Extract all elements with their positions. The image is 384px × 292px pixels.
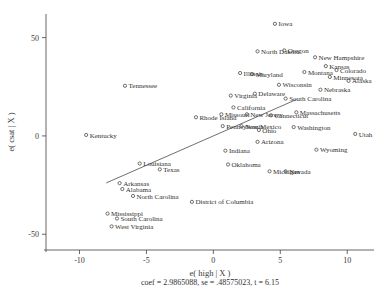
data-point-label: Delaware: [258, 90, 285, 98]
data-point: [85, 133, 88, 136]
scatter-plot: -10-50510-50050e( high | X )e( csat | X …: [0, 0, 384, 292]
data-point: [324, 65, 327, 68]
data-point-label: Kentucky: [90, 132, 118, 140]
x-tick-label: 5: [278, 256, 282, 265]
data-point-label: Virginia: [234, 92, 258, 100]
regression-annotation-text: coef = 2.9865088, se = .48575023, t = 6.…: [141, 278, 279, 287]
data-point: [277, 83, 280, 86]
data-point: [268, 170, 271, 173]
data-point: [131, 194, 134, 197]
data-point-label: Oklahoma: [232, 161, 262, 169]
data-point: [118, 182, 121, 185]
data-point-label: Tennessee: [128, 82, 157, 90]
data-point: [256, 50, 259, 53]
data-point: [229, 94, 232, 97]
data-point-label: Iowa: [278, 20, 293, 28]
data-point: [303, 70, 306, 73]
data-point: [106, 212, 109, 215]
data-point: [292, 125, 295, 128]
x-tick-label: -10: [74, 256, 85, 265]
data-point-label: Wisconsin: [282, 81, 312, 89]
data-point-label: Washington: [297, 124, 331, 132]
x-tick-label: -5: [143, 256, 150, 265]
data-point-label: Ohio: [262, 127, 277, 135]
data-point-label: Wyoming: [320, 146, 348, 154]
data-point-label: District of Columbia: [195, 198, 254, 206]
data-point: [319, 88, 322, 91]
data-point-label: Rhode Island: [199, 114, 237, 122]
y-tick-label: 50: [31, 34, 39, 43]
data-point: [239, 71, 242, 74]
data-point: [110, 225, 113, 228]
data-point-label: Alaska: [352, 77, 372, 85]
data-point: [256, 140, 259, 143]
data-point-label: New Hampshire: [319, 54, 365, 62]
x-axis-title-text: e( high | X ): [190, 268, 231, 278]
data-point-label: West Virginia: [115, 223, 154, 231]
data-point: [123, 84, 126, 87]
data-point: [284, 97, 287, 100]
data-point: [273, 22, 276, 25]
data-point: [232, 106, 235, 109]
data-point-label: South Carolina: [289, 95, 332, 103]
x-tick-label: 0: [211, 256, 215, 265]
data-point: [138, 162, 141, 165]
data-point: [224, 149, 227, 152]
y-axis-title-text: e( csat | X ): [6, 112, 16, 151]
chart-container: -10-50510-50050e( high | X )e( csat | X …: [0, 0, 384, 292]
data-point-label: Utah: [359, 131, 373, 139]
y-tick-label: -50: [28, 230, 39, 239]
data-point-label: South Carolina: [120, 215, 163, 223]
data-point: [190, 200, 193, 203]
x-tick-label: 10: [343, 256, 351, 265]
data-point: [194, 116, 197, 119]
data-point-label: Texas: [163, 166, 180, 174]
data-point-label: Illinois: [244, 70, 264, 78]
y-tick-label: 0: [35, 132, 39, 141]
data-point-label: Oregon: [288, 47, 309, 55]
data-point: [354, 132, 357, 135]
data-point: [221, 125, 224, 128]
data-point-label: Massachusetts: [300, 109, 341, 117]
data-point-label: North Carolina: [137, 193, 180, 201]
data-point: [315, 148, 318, 151]
data-point: [121, 187, 124, 190]
data-point-label: Indiana: [229, 147, 251, 155]
data-point-label: Arizona: [261, 138, 284, 146]
data-point: [313, 56, 316, 59]
data-point-label: Nevada: [289, 168, 311, 176]
data-point-label: Nebraska: [324, 86, 351, 94]
data-point: [226, 163, 229, 166]
data-point: [158, 168, 161, 171]
